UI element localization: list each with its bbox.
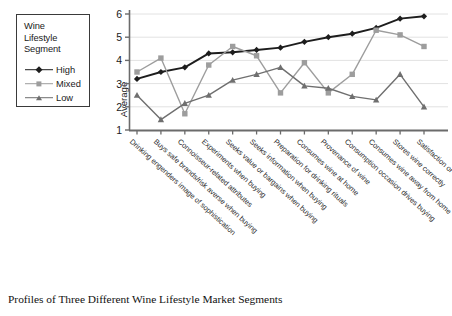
data-point-high-9 (349, 31, 355, 37)
series-line-mixed (137, 30, 424, 114)
data-point-high-6 (277, 45, 283, 51)
figure-caption: Profiles of Three Different Wine Lifesty… (8, 293, 282, 305)
data-point-high-4 (230, 49, 236, 55)
data-point-high-8 (325, 34, 331, 40)
data-point-high-0 (134, 76, 140, 82)
data-point-mixed-7 (302, 60, 307, 65)
data-point-mixed-10 (373, 28, 378, 33)
data-point-mixed-1 (158, 55, 163, 60)
data-point-mixed-3 (206, 62, 211, 67)
data-point-mixed-5 (254, 53, 259, 58)
plot-svg (0, 0, 452, 140)
data-point-low-11 (397, 71, 403, 77)
plot-area: 123456 Drinking engenders image of sophi… (0, 0, 452, 316)
data-point-mixed-8 (326, 90, 331, 95)
data-point-mixed-6 (278, 90, 283, 95)
y-tick-label-1: 1 (108, 124, 122, 136)
y-tick-label-6: 6 (108, 8, 122, 20)
data-point-high-11 (397, 16, 403, 22)
data-point-mixed-12 (421, 44, 426, 49)
data-point-mixed-0 (134, 69, 139, 74)
data-point-low-0 (134, 92, 140, 98)
data-point-mixed-11 (397, 32, 402, 37)
data-point-low-6 (277, 64, 283, 70)
data-point-mixed-4 (230, 44, 235, 49)
y-tick-label-3: 3 (108, 78, 122, 90)
data-point-high-1 (158, 69, 164, 75)
wine-lifestyle-chart-figure: Wine Lifestyle Segment High Mixed (0, 0, 452, 316)
y-tick-label-4: 4 (108, 54, 122, 66)
y-tick-label-2: 2 (108, 101, 122, 113)
data-point-high-5 (253, 47, 259, 53)
data-point-mixed-9 (350, 72, 355, 77)
y-tick-label-5: 5 (108, 31, 122, 43)
data-point-high-7 (301, 39, 307, 45)
data-point-low-3 (206, 92, 212, 98)
data-point-mixed-2 (182, 111, 187, 116)
